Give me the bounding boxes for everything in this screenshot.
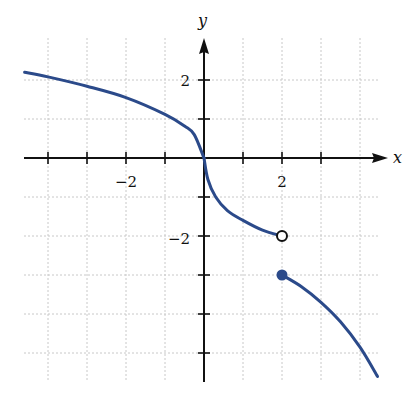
curves <box>25 72 378 376</box>
open-circle-point <box>277 231 287 241</box>
x-tick-label-2: 2 <box>277 173 287 191</box>
ticks <box>48 80 321 353</box>
x-axis-label: x <box>393 148 402 167</box>
y-tick-label-2: 2 <box>180 72 190 90</box>
x-tick-label-neg2: −2 <box>115 173 137 191</box>
axes <box>24 38 388 382</box>
grid <box>24 38 380 382</box>
curve-left-branch <box>25 72 204 158</box>
y-axis-arrow-icon <box>199 38 209 54</box>
curve-right-branch <box>282 275 378 376</box>
x-axis-arrow-icon <box>372 153 388 163</box>
function-graph: −2 2 2 −2 x y <box>0 0 420 412</box>
closed-circle-point <box>277 270 288 281</box>
y-tick-label-neg2: −2 <box>168 230 190 248</box>
curve-middle-branch <box>204 158 282 236</box>
y-axis-label: y <box>197 11 208 30</box>
